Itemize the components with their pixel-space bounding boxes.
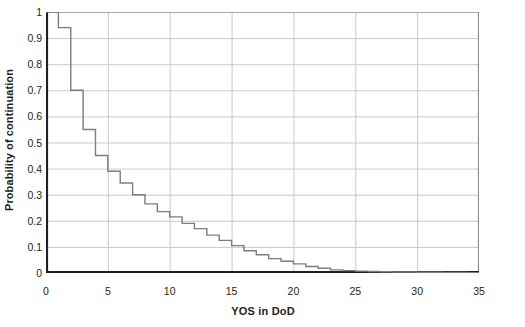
y-tick-label: 0.8	[27, 58, 42, 70]
x-axis-title-label: YOS in DoD	[46, 305, 480, 317]
y-tick-label: 0.2	[27, 215, 42, 227]
step-line-series	[46, 12, 479, 273]
y-tick-label: 1	[36, 6, 42, 18]
y-axis-title: Probability of continuation	[0, 0, 18, 280]
plot-area	[46, 12, 479, 273]
x-tick-label: 10	[164, 285, 176, 297]
chart-container: Probability of continuation 00.10.20.30.…	[0, 0, 525, 327]
y-tick-label: 0.7	[27, 84, 42, 96]
plot-svg	[46, 12, 479, 273]
y-tick-label: 0.4	[27, 163, 42, 175]
y-tick-label: 0.6	[27, 110, 42, 122]
y-tick-label: 0.5	[27, 137, 42, 149]
x-tick-label: 35	[473, 285, 485, 297]
x-tick-label: 25	[349, 285, 361, 297]
y-axis-tick-labels: 00.10.20.30.40.50.60.70.80.91	[18, 0, 44, 327]
x-tick-label: 30	[411, 285, 423, 297]
x-tick-label: 5	[105, 285, 111, 297]
y-tick-label: 0.3	[27, 189, 42, 201]
horizontal-grid-lines	[46, 13, 479, 274]
y-tick-label: 0.1	[27, 241, 42, 253]
x-axis-tick-labels: 05101520253035	[0, 281, 525, 301]
x-tick-label: 0	[43, 285, 49, 297]
y-axis-title-label: Probability of continuation	[3, 69, 15, 211]
y-tick-label: 0	[36, 267, 42, 279]
x-tick-label: 20	[288, 285, 300, 297]
y-tick-label: 0.9	[27, 32, 42, 44]
x-tick-label: 15	[226, 285, 238, 297]
